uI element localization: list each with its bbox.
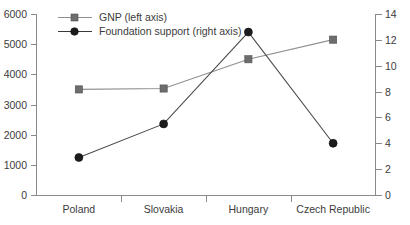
x-category-label: Czech Republic: [296, 203, 370, 215]
x-category-label: Slovakia: [144, 203, 184, 215]
left-tick-label: 5000: [4, 38, 28, 50]
gnp-data-point: [330, 36, 337, 43]
foundation-support-data-point: [75, 154, 83, 162]
gnp-data-point: [160, 85, 167, 92]
left-tick-label: 6000: [4, 8, 28, 20]
right-tick-label: 14: [385, 8, 397, 20]
left-tick-label: 4000: [4, 68, 28, 80]
legend-label-foundation-support: Foundation support (right axis): [99, 25, 241, 37]
right-tick-label: 10: [385, 60, 397, 72]
foundation-support-data-point: [329, 139, 337, 147]
right-tick-label: 0: [385, 189, 391, 201]
right-tick-label: 12: [385, 34, 397, 46]
foundation-support-data-point: [160, 120, 168, 128]
legend-square-marker-icon: [71, 14, 78, 21]
legend-circle-marker-icon: [71, 28, 79, 36]
x-category-label: Poland: [63, 203, 96, 215]
legend-label-gnp: GNP (left axis): [99, 11, 167, 23]
right-tick-label: 6: [385, 111, 391, 123]
chart-container: 0100020003000400050006000 02468101214 Po…: [0, 0, 410, 225]
foundation-support-data-point: [244, 28, 252, 36]
x-category-label: Hungary: [229, 203, 269, 215]
left-tick-label: 2000: [4, 129, 28, 141]
dual-axis-line-chart: 0100020003000400050006000 02468101214 Po…: [0, 0, 410, 225]
right-tick-label: 2: [385, 163, 391, 175]
right-tick-label: 4: [385, 137, 391, 149]
left-tick-label: 3000: [4, 99, 28, 111]
gnp-data-point: [75, 86, 82, 93]
left-tick-label: 0: [21, 189, 27, 201]
right-tick-label: 8: [385, 86, 391, 98]
gnp-data-point: [245, 56, 252, 63]
left-tick-label: 1000: [4, 159, 28, 171]
